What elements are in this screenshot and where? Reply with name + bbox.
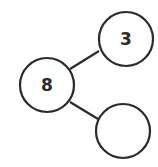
connector-whole-to-top-part — [70, 51, 99, 69]
top-part-value: 3 — [120, 29, 132, 49]
whole-circle: 8 — [20, 58, 74, 112]
whole-value: 8 — [41, 75, 53, 95]
connector-whole-to-bottom-part — [70, 102, 98, 119]
top-part-circle: 3 — [99, 12, 153, 66]
bottom-part-circle[interactable] — [96, 104, 150, 158]
number-bond-diagram: 8 3 — [0, 0, 158, 167]
